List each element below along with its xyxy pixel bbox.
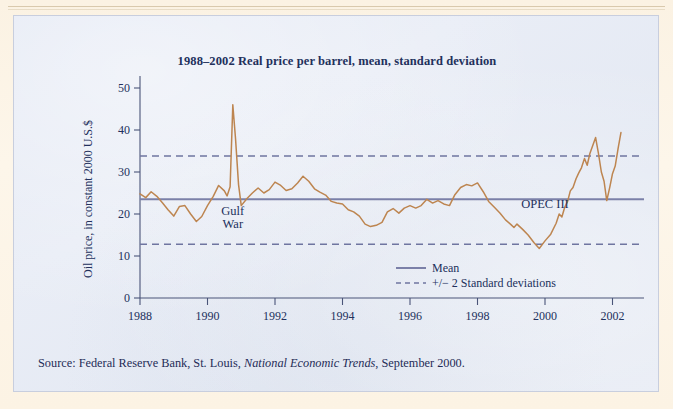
chart-annotation-0: Gulf xyxy=(221,204,245,218)
y-axis-tick-label: 50 xyxy=(118,81,130,95)
source-publication: National Economic Trends xyxy=(244,356,375,370)
chart-annotation-1: War xyxy=(223,217,244,231)
x-axis-tick-label: 2002 xyxy=(601,309,625,323)
legend-label-0: Mean xyxy=(432,261,459,275)
chart-annotation-2: OPEC III xyxy=(521,197,569,211)
chart-title: 1988–2002 Real price per barrel, mean, s… xyxy=(14,54,660,69)
y-axis-tick-label: 30 xyxy=(118,165,130,179)
source-prefix: Source: Federal Reserve Bank, St. Louis, xyxy=(38,356,244,370)
x-axis-tick-label: 1988 xyxy=(128,309,152,323)
y-axis-tick-label: 10 xyxy=(118,249,130,263)
figure-panel: 1988–2002 Real price per barrel, mean, s… xyxy=(13,15,659,392)
x-axis-tick-label: 1994 xyxy=(331,309,355,323)
x-axis-tick-label: 1998 xyxy=(466,309,490,323)
y-axis-tick-label: 20 xyxy=(118,207,130,221)
x-axis-tick-label: 1996 xyxy=(398,309,422,323)
page-top-rule xyxy=(8,6,665,7)
y-axis-tick-label: 0 xyxy=(124,291,130,305)
source-note: Source: Federal Reserve Bank, St. Louis,… xyxy=(38,356,638,371)
y-axis-title: Oil price, in constant 2000 U.S.$ xyxy=(81,120,95,278)
y-axis-tick-label: 40 xyxy=(118,123,130,137)
x-axis-tick-label: 1990 xyxy=(196,309,220,323)
legend-label-1: +/− 2 Standard deviations xyxy=(432,276,556,290)
page-background: 1988–2002 Real price per barrel, mean, s… xyxy=(0,0,673,409)
source-suffix: , September 2000. xyxy=(375,356,464,370)
x-axis-tick-label: 2000 xyxy=(533,309,557,323)
x-axis-tick-label: 1992 xyxy=(263,309,287,323)
data-series-line xyxy=(140,105,621,249)
page-top-rule-secondary xyxy=(8,9,665,10)
